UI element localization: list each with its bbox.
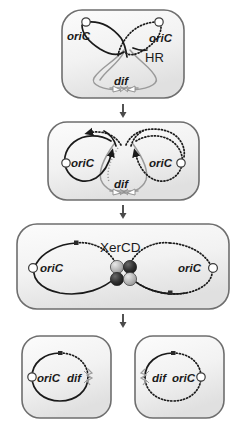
oric-marker-left-panel-2 xyxy=(62,159,70,167)
xercd-subunit-lower-left xyxy=(110,272,123,285)
oric-label-left-panel-3: oriC xyxy=(40,262,64,274)
oric-label-right-panel-3: oriC xyxy=(178,262,202,274)
oric-marker-panel-4-right xyxy=(197,373,205,381)
dif-label-panel-2: dif xyxy=(114,178,129,190)
arrow-step-3-to-4 xyxy=(120,314,127,328)
segment-junction-right-panel-3 xyxy=(168,291,173,296)
hr-label-panel-1: HR xyxy=(145,50,164,65)
xercd-subunit-upper-right xyxy=(123,260,136,273)
dif-label-panel-4-left: dif xyxy=(67,372,82,384)
panel-2-dimer-segregation: oriC oriC dif xyxy=(48,122,199,200)
xercd-subunit-lower-right xyxy=(123,272,136,285)
xercd-subunit-upper-left xyxy=(110,260,123,273)
oric-marker-panel-4-left xyxy=(28,373,36,381)
oric-label-right-panel-1: oriC xyxy=(149,32,173,44)
oric-label-panel-4-right: oriC xyxy=(172,372,196,384)
oric-marker-right-panel-2 xyxy=(177,159,185,167)
oric-label-left-panel-2: oriC xyxy=(71,157,95,169)
panel-4-left-resolved-monomer: oriC dif xyxy=(22,336,111,418)
segment-junction-left-panel-3 xyxy=(74,241,79,246)
figure-root: oriC oriC HR dif xyxy=(0,0,246,440)
oric-label-panel-4-left: oriC xyxy=(37,372,61,384)
panel-4-right-resolved-monomer: dif oriC xyxy=(135,336,224,418)
oric-marker-right-panel-1 xyxy=(155,18,163,26)
oric-marker-left-panel-1 xyxy=(82,18,90,26)
panel-1-dimer-formation: oriC oriC HR dif xyxy=(62,10,184,98)
oric-label-right-panel-2: oriC xyxy=(149,157,173,169)
arrow-step-1-to-2 xyxy=(120,104,127,118)
oric-marker-right-panel-3 xyxy=(209,264,218,273)
oric-marker-left-panel-3 xyxy=(29,264,38,273)
dif-label-panel-4-right: dif xyxy=(152,372,167,384)
panel-3-xercd-recombination: oriC oriC XerCD xyxy=(17,224,229,309)
oric-label-left-panel-1: oriC xyxy=(67,30,91,42)
figure-canvas: oriC oriC HR dif xyxy=(0,0,246,440)
segment-junction-panel-4-right xyxy=(171,351,176,355)
xercd-label-panel-3: XerCD xyxy=(100,240,141,255)
segment-junction-panel-4-left xyxy=(58,351,63,355)
arrow-step-2-to-3 xyxy=(120,205,127,219)
dif-label-panel-1: dif xyxy=(114,75,129,87)
